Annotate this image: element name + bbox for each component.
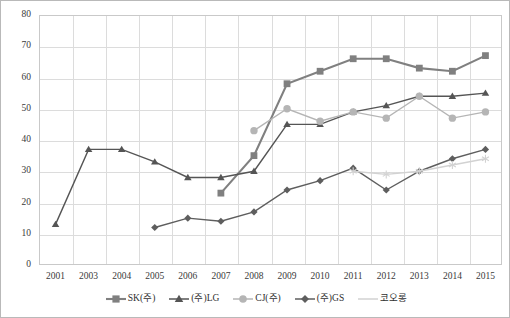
y-axis-tick-label: 70 <box>0 41 31 51</box>
y-axis-tick-label: 30 <box>0 166 31 176</box>
data-point-marker <box>449 114 456 121</box>
data-point-marker <box>151 224 158 231</box>
legend-marker-icon <box>232 293 254 305</box>
y-axis-tick-label: 50 <box>0 104 31 114</box>
data-point-marker <box>482 108 489 115</box>
legend-marker-icon <box>357 293 379 305</box>
data-point-marker <box>250 208 257 215</box>
data-point-marker <box>383 55 390 62</box>
y-axis-tick-label: 10 <box>0 229 31 239</box>
x-axis-tick-label: 2015 <box>463 272 507 282</box>
legend-label: SK(주) <box>128 294 155 304</box>
data-point-marker <box>416 65 423 72</box>
data-point-marker <box>482 89 490 95</box>
data-point-marker <box>316 118 323 125</box>
legend-item-3[interactable]: CJ(주) <box>232 293 280 305</box>
series-2 <box>52 89 489 227</box>
y-axis-tick-label: 20 <box>0 198 31 208</box>
legend-label: 코오롱 <box>380 294 407 304</box>
data-point-marker <box>482 52 489 59</box>
data-point-marker <box>283 105 290 112</box>
chart-legend: SK(주)(주)LGCJ(주)(주)GS코오롱 <box>1 293 510 305</box>
series-line <box>56 93 486 224</box>
data-point-marker <box>482 146 489 153</box>
data-point-marker <box>349 108 356 115</box>
data-point-marker <box>184 215 191 222</box>
series-5 <box>350 155 489 179</box>
legend-marker-icon <box>294 293 316 305</box>
data-point-marker <box>350 55 357 62</box>
data-point-marker <box>317 68 324 75</box>
data-point-marker <box>52 221 60 227</box>
legend-item-1[interactable]: SK(주) <box>105 293 155 305</box>
y-axis-tick-label: 0 <box>0 260 31 270</box>
data-point-marker <box>383 186 390 193</box>
legend-label: CJ(주) <box>255 294 280 304</box>
data-point-marker <box>217 190 224 197</box>
data-point-marker <box>284 80 291 87</box>
data-point-marker <box>217 218 224 225</box>
y-axis-tick-label: 60 <box>0 73 31 83</box>
series-4 <box>151 146 489 231</box>
data-point-marker <box>449 68 456 75</box>
data-point-marker <box>317 177 324 184</box>
y-axis-tick-label: 40 <box>0 135 31 145</box>
legend-item-4[interactable]: (주)GS <box>294 293 344 305</box>
data-point-marker <box>250 127 257 134</box>
data-point-marker <box>416 93 423 100</box>
y-axis-tick-label: 80 <box>0 10 31 20</box>
chart-container: 0102030405060708020012003200420052006200… <box>0 0 510 318</box>
legend-item-5[interactable]: 코오롱 <box>357 293 407 305</box>
legend-marker-icon <box>105 293 127 305</box>
series-line <box>155 149 486 227</box>
data-point-marker <box>251 152 258 159</box>
legend-marker-icon <box>168 293 190 305</box>
data-point-marker <box>283 186 290 193</box>
legend-label: (주)GS <box>317 294 344 304</box>
legend-item-2[interactable]: (주)LG <box>168 293 219 305</box>
data-point-marker <box>383 114 390 121</box>
series-layer <box>39 15 502 265</box>
legend-label: (주)LG <box>191 294 219 304</box>
